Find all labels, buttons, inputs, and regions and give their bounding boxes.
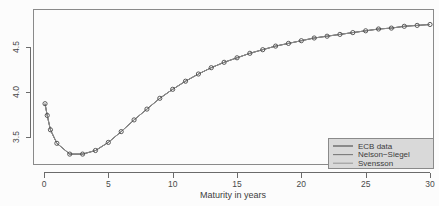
x-tick-label: 0 (42, 179, 47, 189)
x-tick-label: 5 (106, 179, 111, 189)
x-tick-label: 30 (425, 179, 435, 189)
chart-legend: ECB dataNelson−SiegelSvensson (329, 139, 434, 169)
y-tick-label: 4.5 (11, 41, 21, 53)
legend-label: Svensson (358, 159, 393, 168)
y-tick-label: 4.0 (11, 86, 21, 98)
series-line-0 (45, 25, 430, 155)
series-line-2 (45, 25, 430, 155)
x-tick-label: 20 (297, 179, 307, 189)
series-line-1 (45, 25, 430, 155)
x-tick-label: 10 (168, 179, 178, 189)
x-tick-label: 25 (361, 179, 371, 189)
x-tick-label: 15 (232, 179, 242, 189)
yield-curve-chart: 051015202530 3.54.04.5 Maturity in years… (0, 0, 439, 206)
x-axis-title: Maturity in years (200, 190, 267, 200)
data-markers-layer (43, 22, 432, 156)
y-axis-ticks: 3.54.04.5 (11, 41, 31, 143)
x-axis-ticks: 051015202530 (42, 173, 435, 190)
data-series-layer (45, 25, 430, 155)
y-tick-label: 3.5 (11, 131, 21, 143)
chart-figure: 051015202530 3.54.04.5 Maturity in years… (0, 0, 439, 206)
